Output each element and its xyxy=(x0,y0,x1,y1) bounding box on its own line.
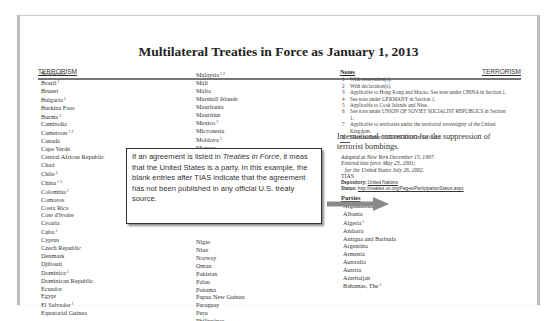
treaty-entered-us: for the United States July 26, 2002. xyxy=(341,167,517,174)
list-item: Oman xyxy=(196,262,245,270)
footnote-marker: 2 xyxy=(67,269,69,274)
country-name: Mali xyxy=(196,79,208,86)
footnote-marker: 1 xyxy=(57,79,59,84)
treaty-title: International convention for the suppres… xyxy=(337,132,517,152)
footnote-marker: 1 3 xyxy=(57,179,62,184)
list-item: Cape Verde xyxy=(41,145,104,153)
treaty-adopted: Adopted at New York December 15, 1997. xyxy=(341,154,517,161)
list-item: Chile2 xyxy=(41,169,104,178)
list-item: Cambodia xyxy=(41,120,104,128)
treaty-entered: Entered into force May 23, 2001; xyxy=(341,160,517,167)
list-item: Costa Rica xyxy=(41,204,104,212)
list-item: Denmark xyxy=(41,252,104,260)
list-item: Brazil1 xyxy=(41,78,104,87)
country-name: Pakistan xyxy=(196,270,217,277)
country-name: Dominica xyxy=(41,269,66,276)
list-item: Canada xyxy=(41,137,104,145)
footnote-marker: 1 2 xyxy=(220,71,225,76)
country-name: Micronesia xyxy=(196,127,224,134)
country-name: Andorra xyxy=(343,227,364,234)
country-name: Cote d'Ivoire xyxy=(41,211,74,218)
note-item: 6See note under UNION OF SOVIET SOCIALIS… xyxy=(340,108,510,121)
list-item: Antigua and Barbuda xyxy=(343,235,517,243)
country-name: Mexico xyxy=(196,119,215,126)
country-name: Dominican Republic xyxy=(41,277,93,284)
list-item: Paraguay xyxy=(196,301,245,309)
list-item: Colombia1 xyxy=(41,187,104,196)
list-item: Algeria1 xyxy=(343,218,517,227)
arrow-head xyxy=(373,197,389,211)
footnote-marker: 1 xyxy=(59,113,61,118)
country-name: Bahamas, The xyxy=(343,282,378,289)
country-name: El Salvador xyxy=(41,301,71,308)
country-name: Costa Rica xyxy=(41,204,68,211)
list-item: Micronesia xyxy=(196,127,245,135)
callout-italic: Treaties in Force xyxy=(223,152,279,161)
country-name: Czech Republic xyxy=(41,244,81,251)
country-name: Panama xyxy=(196,286,216,293)
footnote-marker: 2 xyxy=(216,119,218,124)
list-item: Malaysia1 2 xyxy=(196,70,245,79)
list-item: Burma1 xyxy=(41,112,104,121)
country-name: Palau xyxy=(196,278,210,285)
status-link[interactable]: http://treaties.un.org/Pages/Participati… xyxy=(358,186,464,191)
country-name: Mauritania xyxy=(196,103,224,110)
footnote-marker: 1 xyxy=(55,228,57,233)
country-name: Mauritius xyxy=(196,111,221,118)
list-item: Austria xyxy=(343,266,517,274)
list-item: Equatorial Guinea xyxy=(41,309,104,317)
list-item: Cuba1 xyxy=(41,227,104,236)
list-item: Malta xyxy=(196,87,245,95)
country-name: Marshall Islands xyxy=(196,95,238,102)
footnote-marker: 2 xyxy=(64,96,66,101)
country-name: Azerbaijan xyxy=(343,274,370,281)
list-item: Azerbaijan xyxy=(343,274,517,282)
country-name: Cape Verde xyxy=(41,145,70,152)
list-item: Comoros xyxy=(41,196,104,204)
footnote-marker: 1 xyxy=(67,188,69,193)
list-item: Armenia xyxy=(343,250,517,258)
status-line: Status: http://treaties.un.org/Pages/Par… xyxy=(337,186,517,192)
treaty-dates: Adopted at New York December 15, 1997. E… xyxy=(337,154,517,174)
list-item: Philippines xyxy=(196,317,245,321)
notes-list: 1With reservation(s).2With declaration(s… xyxy=(340,76,510,140)
country-name: Australia xyxy=(343,258,366,265)
list-item: Ecuador xyxy=(41,285,104,293)
callout-text-1: If an agreement is listed in xyxy=(132,152,223,161)
country-name: Cameroon xyxy=(41,129,67,136)
footnote-marker: 1 xyxy=(363,219,365,224)
country-name: Niger xyxy=(196,238,210,245)
list-item: Bahamas, The1 xyxy=(343,281,517,290)
list-item: Argentina xyxy=(343,242,517,250)
list-item: Croatia xyxy=(41,219,104,227)
status-label: Status: xyxy=(341,186,357,191)
list-item: Papua New Guinea xyxy=(196,293,245,301)
list-item: Cameroon1 2 xyxy=(41,128,104,137)
country-name: Norway xyxy=(196,254,216,261)
country-name: Cyprus xyxy=(41,236,59,243)
country-name: Paraguay xyxy=(196,301,219,308)
country-name: Brunei xyxy=(41,87,58,94)
country-name: Colombia xyxy=(41,188,66,195)
country-name: Niue xyxy=(196,246,208,253)
country-list-left: BotswanaBrazil1BruneiBulgaria2Burkina Fa… xyxy=(41,70,104,317)
country-name: Algeria xyxy=(343,219,362,226)
explanation-callout: If an agreement is listed in Treaties in… xyxy=(126,148,322,224)
country-name: Chile xyxy=(41,170,55,177)
country-name: Albania xyxy=(343,210,363,217)
list-item: Marshall Islands xyxy=(196,95,245,103)
country-name: Malta xyxy=(196,87,211,94)
footnote-marker: 2 xyxy=(56,170,58,175)
country-name: Egypt xyxy=(41,292,56,299)
country-name: Botswana xyxy=(41,70,66,77)
country-name: Ecuador xyxy=(41,285,62,292)
list-item: Mali xyxy=(196,79,245,87)
country-name: Antigua and Barbuda xyxy=(343,235,396,242)
country-name: Papua New Guinea xyxy=(196,293,245,300)
country-name: Philippines xyxy=(196,317,224,321)
depository-link[interactable]: United Nations xyxy=(368,180,398,185)
country-list-middle-bottom: NigerNiueNorwayOmanPakistanPalauPanamaPa… xyxy=(196,238,245,321)
country-name: Djibouti xyxy=(41,260,62,267)
notes-heading: Notes xyxy=(340,69,510,75)
note-number: 6 xyxy=(340,108,350,121)
